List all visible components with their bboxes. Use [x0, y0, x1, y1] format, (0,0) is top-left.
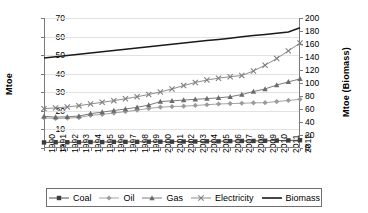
data-point-diamond [228, 101, 233, 106]
legend-label: Electricity [215, 193, 254, 203]
legend-item-coal[interactable]: Coal [48, 193, 92, 203]
data-point-square [112, 140, 116, 144]
data-point-square [135, 140, 139, 144]
legend-symbol-triangle-icon [141, 193, 163, 203]
x-axis-tick-mark [56, 148, 57, 151]
data-series-layer [44, 18, 300, 148]
y-axis-right-tick-label: 120 [305, 66, 331, 74]
data-point-square [147, 139, 151, 143]
data-point-diamond [181, 104, 186, 109]
y-axis-right-tick-mark [300, 70, 303, 71]
data-point-square [53, 140, 57, 144]
legend-item-biomass[interactable]: Biomass [261, 193, 321, 203]
x-axis-tick-mark [67, 148, 68, 151]
legend-item-oil[interactable]: Oil [98, 193, 134, 203]
legend-label: Oil [123, 193, 134, 203]
y-axis-right-tick-label: 100 [305, 79, 331, 87]
data-point-cross [262, 63, 267, 68]
x-axis-tick-mark [160, 148, 161, 151]
series-gas [41, 76, 302, 119]
legend-label: Coal [73, 193, 92, 203]
data-point-square [123, 140, 127, 144]
x-axis-tick-mark [114, 148, 115, 151]
x-axis-tick-mark [277, 148, 278, 151]
data-point-square [158, 139, 162, 143]
x-axis-tick-mark [149, 148, 150, 151]
data-point-square [57, 195, 61, 199]
y-axis-right-tick-mark [300, 18, 303, 19]
data-point-cross [251, 68, 256, 73]
legend-symbol-none-icon [261, 193, 283, 203]
chart-figure: Mtoe Mtoe (Biomass) 010203040506070 0204… [0, 0, 368, 213]
y-axis-right-tick-label: 40 [305, 118, 331, 126]
data-point-square [286, 138, 290, 142]
data-point-diamond [239, 101, 244, 106]
data-point-square [88, 140, 92, 144]
y-axis-right-tick-label: 200 [305, 14, 331, 22]
data-point-square [228, 139, 232, 143]
data-point-diamond [251, 100, 256, 105]
data-point-square [100, 140, 104, 144]
x-axis-tick-mark [172, 148, 173, 151]
plot-area [44, 18, 300, 148]
y-axis-right-tick-mark [300, 57, 303, 58]
y-axis-right-tick-label: 160 [305, 40, 331, 48]
data-point-cross [181, 83, 186, 88]
x-axis-tick-mark [137, 148, 138, 151]
data-point-diamond [204, 102, 209, 107]
data-point-square [251, 139, 255, 143]
data-point-square [65, 140, 69, 144]
y-axis-right-tick-mark [300, 122, 303, 123]
legend-item-electricity[interactable]: Electricity [190, 193, 254, 203]
x-axis-tick-mark [44, 148, 45, 151]
data-point-diamond [169, 104, 174, 109]
y-axis-right-tick-label: 60 [305, 105, 331, 113]
data-point-square [240, 139, 244, 143]
legend-symbol-cross-icon [190, 193, 212, 203]
x-axis-tick-mark [300, 148, 301, 151]
data-point-square [263, 139, 267, 143]
legend-label: Biomass [286, 193, 321, 203]
data-point-diamond [274, 99, 279, 104]
data-point-diamond [107, 195, 112, 200]
data-point-cross [274, 56, 279, 61]
x-axis-tick-mark [265, 148, 266, 151]
legend-symbol-square-icon [48, 193, 70, 203]
x-axis-tick-mark [91, 148, 92, 151]
data-point-diamond [286, 98, 291, 103]
data-point-diamond [297, 97, 302, 102]
legend-symbol-diamond-icon [98, 193, 120, 203]
legend-label: Gas [166, 193, 183, 203]
y-axis-right-tick-mark [300, 83, 303, 84]
x-axis-tick-mark [79, 148, 80, 151]
data-point-diamond [216, 101, 221, 106]
data-point-diamond [262, 100, 267, 105]
data-point-square [77, 140, 81, 144]
x-axis-tick-mark [242, 148, 243, 151]
chart-legend: CoalOilGasElectricityBiomass [46, 188, 322, 207]
data-point-square [42, 140, 46, 144]
x-axis-tick-mark [288, 148, 289, 151]
series-line [44, 28, 300, 58]
x-axis-tick-mark [184, 148, 185, 151]
series-coal [42, 138, 302, 145]
y-axis-right-title: Mtoe (Biomass) [341, 34, 351, 130]
data-point-square [216, 139, 220, 143]
x-axis-tick-mark [125, 148, 126, 151]
data-point-triangle [297, 76, 302, 81]
data-point-diamond [158, 105, 163, 110]
legend-item-gas[interactable]: Gas [141, 193, 183, 203]
data-point-square [298, 138, 302, 142]
data-point-square [193, 139, 197, 143]
y-axis-right-tick-label: 180 [305, 27, 331, 35]
data-point-cross [286, 48, 291, 53]
x-axis-tick-mark [230, 148, 231, 151]
data-point-square [170, 139, 174, 143]
x-axis-tick-label: 2012 [304, 134, 312, 153]
data-point-square [181, 139, 185, 143]
x-axis-tick-mark [195, 148, 196, 151]
y-axis-right-tick-label: 80 [305, 92, 331, 100]
y-axis-left-title: Mtoe [4, 64, 14, 104]
data-point-square [205, 139, 209, 143]
x-axis-tick-mark [219, 148, 220, 151]
